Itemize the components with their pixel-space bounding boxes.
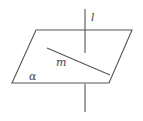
label-l: l	[91, 11, 95, 24]
label-m: m	[56, 56, 66, 69]
label-alpha: α	[29, 70, 37, 83]
diagram-canvas: l m α	[0, 0, 143, 121]
